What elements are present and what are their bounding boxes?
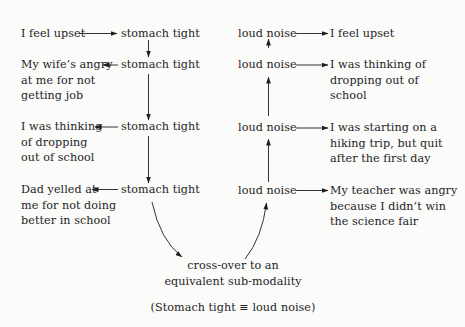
left-cause-2-line-2: at me for not: [21, 73, 113, 89]
right-effect-2-line-2: dropping out of: [330, 73, 426, 89]
right-effect-3-line-2: hiking trip, but quit: [330, 136, 443, 152]
left-cause-4-line-2: me for not doing: [21, 198, 116, 214]
left-cause-2-line-3: getting job: [21, 88, 113, 104]
left-cause-4: Dad yelled at me for not doing better in…: [21, 182, 116, 229]
right-effect-2: I was thinking of dropping out of school: [330, 57, 426, 104]
right-effect-3-line-1: I was starting on a: [330, 120, 443, 136]
crossover-line-1: cross-over to an: [153, 258, 313, 274]
left-feeling-1: stomach tight: [121, 26, 200, 42]
equivalence-label: (Stomach tight ≡ loud noise): [123, 300, 343, 316]
right-effect-4-line-3: the science fair: [330, 214, 457, 230]
right-feeling-3: loud noise: [238, 120, 297, 136]
right-effect-3: I was starting on a hiking trip, but qui…: [330, 120, 443, 167]
arrow-curve-to-crossover: [152, 202, 182, 257]
left-feeling-2: stomach tight: [121, 57, 200, 73]
right-effect-1: I feel upset: [330, 26, 394, 42]
right-effect-4: My teacher was angry because I didn’t wi…: [330, 183, 457, 230]
right-effect-4-line-2: because I didn’t win: [330, 199, 457, 215]
left-feeling-3: stomach tight: [121, 119, 200, 135]
left-cause-3-line-1: I was thinking: [21, 119, 102, 135]
right-feeling-1: loud noise: [238, 26, 297, 42]
left-cause-3-line-3: out of school: [21, 150, 102, 166]
left-cause-2-line-1: My wife’s angry: [21, 57, 113, 73]
left-cause-2: My wife’s angry at me for not getting jo…: [21, 57, 113, 104]
crossover-label: cross-over to an equivalent sub-modality: [153, 258, 313, 289]
right-effect-2-line-1: I was thinking of: [330, 57, 426, 73]
crossover-line-2: equivalent sub-modality: [153, 274, 313, 290]
right-effect-2-line-3: school: [330, 88, 426, 104]
right-effect-4-line-1: My teacher was angry: [330, 183, 457, 199]
right-feeling-4: loud noise: [238, 183, 297, 199]
left-cause-3: I was thinking of dropping out of school: [21, 119, 102, 166]
right-feeling-2: loud noise: [238, 57, 297, 73]
right-effect-3-line-3: after the first day: [330, 151, 443, 167]
left-cause-4-line-1: Dad yelled at: [21, 182, 116, 198]
left-feeling-4: stomach tight: [121, 182, 200, 198]
left-cause-1: I feel upset: [21, 26, 85, 42]
left-cause-3-line-2: of dropping: [21, 135, 102, 151]
left-cause-4-line-3: better in school: [21, 213, 116, 229]
arrow-curve-from-crossover: [245, 203, 267, 259]
